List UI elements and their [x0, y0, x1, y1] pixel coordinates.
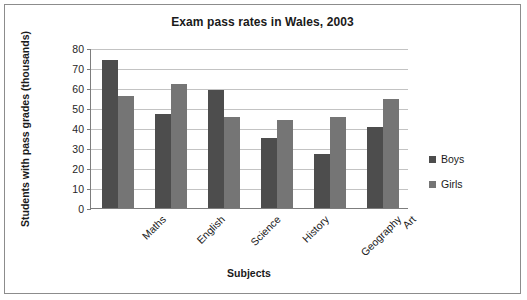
y-axis-tick-label: 70 — [72, 63, 84, 75]
y-axis-tick-label: 0 — [78, 203, 84, 215]
x-axis-label-art: Art — [399, 213, 417, 231]
bar-group — [261, 49, 293, 208]
bar-maths-girls[interactable] — [118, 96, 134, 208]
gridline — [91, 89, 408, 90]
y-axis-title-label: Students with pass grades (thousands) — [19, 31, 31, 227]
y-axis-tick — [87, 49, 91, 50]
bar-geography-girls[interactable] — [330, 117, 346, 208]
y-axis-tick-label: 30 — [72, 143, 84, 155]
bar-history-girls[interactable] — [277, 120, 293, 208]
chart-legend: BoysGirls — [429, 153, 464, 203]
gridline — [91, 49, 408, 50]
legend-label: Girls — [441, 178, 463, 190]
bar-maths-boys[interactable] — [102, 60, 118, 208]
x-axis-label-english: English — [194, 213, 227, 246]
gridline — [91, 169, 408, 170]
y-axis-tick — [87, 129, 91, 130]
x-axis-label-geography: Geography — [358, 213, 403, 258]
legend-swatch-icon — [429, 181, 436, 188]
bar-group — [314, 49, 346, 208]
bar-history-boys[interactable] — [261, 138, 277, 208]
bar-group — [102, 49, 134, 208]
y-axis-tick — [87, 169, 91, 170]
chart-frame: Exam pass rates in Wales, 2003 Students … — [4, 4, 521, 294]
y-axis-tick-label: 50 — [72, 103, 84, 115]
legend-swatch-icon — [429, 156, 436, 163]
bar-group — [367, 49, 399, 208]
bar-geography-boys[interactable] — [314, 154, 330, 208]
gridline — [91, 109, 408, 110]
legend-item-girls[interactable]: Girls — [429, 178, 464, 190]
bar-art-boys[interactable] — [367, 127, 383, 208]
y-axis-tick — [87, 189, 91, 190]
y-axis-tick — [87, 109, 91, 110]
x-axis-label-history: History — [299, 213, 331, 245]
y-axis-tick — [87, 89, 91, 90]
chart-title: Exam pass rates in Wales, 2003 — [5, 15, 520, 29]
gridline — [91, 69, 408, 70]
y-axis-tick — [87, 209, 91, 210]
gridline — [91, 149, 408, 150]
y-axis-tick — [87, 69, 91, 70]
y-axis-tick-label: 10 — [72, 183, 84, 195]
legend-item-boys[interactable]: Boys — [429, 153, 464, 165]
gridline — [91, 189, 408, 190]
x-axis-label-maths: Maths — [139, 213, 168, 242]
bar-science-boys[interactable] — [208, 90, 224, 208]
y-axis-title: Students with pass grades (thousands) — [17, 49, 33, 209]
bar-group — [155, 49, 187, 208]
x-axis-title: Subjects — [90, 267, 408, 279]
bar-english-girls[interactable] — [171, 84, 187, 208]
y-axis-tick-label: 60 — [72, 83, 84, 95]
bar-group — [208, 49, 240, 208]
bar-art-girls[interactable] — [383, 99, 399, 208]
bar-english-boys[interactable] — [155, 114, 171, 208]
bar-science-girls[interactable] — [224, 117, 240, 208]
plot-area: 01020304050607080 — [90, 49, 408, 209]
y-axis-tick-label: 20 — [72, 163, 84, 175]
y-axis-tick-label: 40 — [72, 123, 84, 135]
y-axis-tick-label: 80 — [72, 43, 84, 55]
legend-label: Boys — [441, 153, 464, 165]
x-axis-label-science: Science — [247, 213, 282, 248]
gridline — [91, 129, 408, 130]
y-axis-tick — [87, 149, 91, 150]
